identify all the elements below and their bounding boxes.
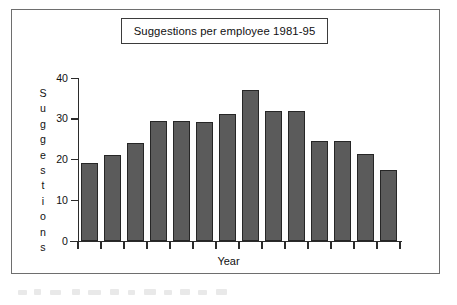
x-tick-7 bbox=[238, 242, 239, 249]
x-tick-13 bbox=[376, 242, 377, 249]
bar bbox=[334, 141, 352, 241]
y-tick-30 bbox=[71, 118, 78, 119]
y-axis-title-letter: S bbox=[39, 86, 46, 101]
plot-area: 010203040 Suggestions Year bbox=[0, 0, 457, 305]
bar bbox=[127, 143, 145, 241]
x-tick-0 bbox=[77, 242, 78, 249]
x-tick-8 bbox=[261, 242, 262, 249]
bar bbox=[380, 170, 398, 241]
y-axis-title-letter: e bbox=[40, 148, 46, 163]
bar bbox=[242, 90, 260, 241]
scan-artifact bbox=[14, 286, 244, 298]
y-axis-title-letter: t bbox=[42, 178, 45, 193]
y-axis-title-letter: n bbox=[40, 225, 46, 240]
bar bbox=[104, 155, 122, 241]
y-axis-title-letter: g bbox=[40, 132, 46, 147]
y-tick-20 bbox=[71, 159, 78, 160]
y-axis-title: Suggestions bbox=[36, 86, 50, 255]
y-tick-label-40: 40 bbox=[42, 73, 68, 84]
bar bbox=[311, 141, 329, 241]
y-axis-line bbox=[78, 78, 79, 242]
bar bbox=[196, 122, 214, 241]
y-axis-title-letter: g bbox=[40, 117, 46, 132]
y-tick-40 bbox=[71, 78, 78, 79]
y-axis-title-letter: s bbox=[40, 240, 45, 255]
x-tick-12 bbox=[353, 242, 354, 249]
bar bbox=[219, 114, 237, 241]
x-axis-title: Year bbox=[0, 255, 457, 267]
y-axis-title-letter: o bbox=[40, 209, 46, 224]
x-tick-6 bbox=[215, 242, 216, 249]
bar bbox=[357, 154, 375, 241]
x-tick-10 bbox=[307, 242, 308, 249]
x-tick-11 bbox=[330, 242, 331, 249]
bar bbox=[288, 111, 306, 241]
y-axis-title-letter: u bbox=[40, 101, 46, 116]
x-tick-1 bbox=[100, 242, 101, 249]
y-tick-10 bbox=[71, 200, 78, 201]
x-tick-14 bbox=[399, 242, 400, 249]
y-axis-title-letter: s bbox=[40, 163, 45, 178]
x-axis-line bbox=[70, 241, 402, 242]
x-tick-4 bbox=[169, 242, 170, 249]
x-tick-2 bbox=[123, 242, 124, 249]
y-axis-title-letter: i bbox=[42, 194, 44, 209]
x-tick-9 bbox=[284, 242, 285, 249]
x-tick-5 bbox=[192, 242, 193, 249]
bar bbox=[265, 111, 283, 241]
bar bbox=[173, 121, 191, 241]
bar bbox=[81, 163, 99, 241]
bar bbox=[150, 121, 168, 241]
x-tick-3 bbox=[146, 242, 147, 249]
